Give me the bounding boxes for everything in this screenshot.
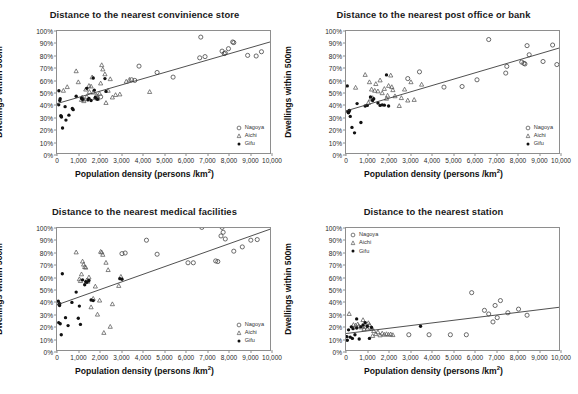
x-tick-label: 8,000 [221, 157, 237, 164]
x-tick-mark [410, 350, 411, 353]
y-tick-label: 70% [329, 65, 342, 72]
x-tick-label: 1,000 [359, 157, 375, 164]
legend-label: Aichi [359, 240, 371, 246]
y-tick-label: 60% [329, 77, 342, 84]
x-tick-mark [272, 153, 273, 156]
y-tick-label: 0% [43, 349, 53, 356]
x-tick-label: 9,000 [531, 157, 547, 164]
x-tick-label: 3,000 [402, 354, 418, 361]
y-tick-label: 20% [40, 324, 53, 331]
plot-area: 0%10%20%30%40%50%60%70%80%90%100%01,0002… [345, 30, 560, 154]
legend-item-aichi: Aichi [236, 330, 264, 336]
x-tick-label: 3,000 [113, 157, 129, 164]
y-tick-label: 20% [329, 127, 342, 134]
x-tick-mark [432, 350, 433, 353]
legend-item-nagoya: Nagoya [350, 232, 378, 238]
gifu-marker-icon [236, 338, 242, 344]
plot-area: 0%10%20%30%40%50%60%70%80%90%100%01,0002… [56, 227, 271, 351]
x-tick-label: 7,000 [199, 157, 215, 164]
x-tick-label: 6,000 [467, 354, 483, 361]
x-tick-mark [346, 350, 347, 353]
x-tick-mark [143, 153, 144, 156]
x-tick-mark [496, 350, 497, 353]
y-axis-label: Dwellings within 500m [0, 227, 8, 351]
x-tick-mark [121, 350, 122, 353]
chart-title: Distance to the nearest medical faciliti… [0, 206, 289, 217]
x-tick-mark [100, 350, 101, 353]
y-tick-label: 90% [329, 40, 342, 47]
y-tick-label: 50% [329, 287, 342, 294]
x-tick-label: 6,000 [178, 354, 194, 361]
legend-label: Aichi [245, 330, 257, 336]
y-tick-label: 90% [329, 237, 342, 244]
x-tick-label: 4,000 [424, 354, 440, 361]
x-axis-label-text: Population density (persons /km [364, 169, 497, 179]
x-tick-mark [561, 153, 562, 156]
x-tick-mark [164, 153, 165, 156]
chart-title: Distance to the nearest convinience stor… [0, 9, 289, 20]
x-tick-label: 0 [55, 354, 59, 361]
legend-item-gifu: Gifu [236, 338, 264, 344]
y-tick-label: 30% [40, 114, 53, 121]
x-axis-label-text: Population density (persons /km [75, 169, 208, 179]
x-tick-label: 0 [344, 157, 348, 164]
chart-panel: Distance to the nearest convinience stor… [0, 0, 289, 197]
x-tick-label: 4,000 [135, 157, 151, 164]
x-tick-mark [272, 350, 273, 353]
chart-legend: NagoyaAichiGifu [236, 322, 264, 344]
x-tick-mark [121, 153, 122, 156]
legend-label: Gifu [534, 141, 544, 147]
legend-label: Nagoya [245, 322, 264, 328]
x-tick-mark [453, 153, 454, 156]
legend-item-aichi: Aichi [236, 133, 264, 139]
y-tick-label: 100% [325, 28, 342, 35]
legend-item-nagoya: Nagoya [236, 322, 264, 328]
y-tick-label: 80% [40, 249, 53, 256]
x-tick-mark [367, 153, 368, 156]
y-tick-label: 60% [40, 274, 53, 281]
x-tick-label: 2,000 [92, 157, 108, 164]
x-tick-label: 8,000 [510, 354, 526, 361]
x-tick-label: 0 [55, 157, 59, 164]
nagoya-marker-icon [236, 322, 242, 328]
nagoya-marker-icon [350, 232, 356, 238]
y-tick-label: 40% [329, 102, 342, 109]
x-tick-mark [186, 153, 187, 156]
y-tick-label: 40% [329, 299, 342, 306]
x-tick-label: 10,000 [551, 157, 571, 164]
legend-label: Gifu [245, 141, 255, 147]
aichi-marker-icon [525, 133, 531, 139]
x-tick-mark [57, 153, 58, 156]
chart-legend: NagoyaAichiGifu [350, 232, 378, 254]
x-tick-label: 9,000 [242, 157, 258, 164]
x-tick-mark [100, 153, 101, 156]
x-tick-mark [539, 153, 540, 156]
x-tick-label: 8,000 [221, 354, 237, 361]
x-axis-label: Population density (persons /km2) [0, 365, 289, 376]
legend-item-gifu: Gifu [350, 248, 378, 254]
chart-panel: Distance to the nearest stationDwellings… [289, 197, 578, 394]
x-tick-label: 1,000 [359, 354, 375, 361]
chart-legend: NagoyaAichiGifu [236, 125, 264, 147]
y-axis-label: Dwellings within 500m [283, 30, 297, 154]
x-tick-label: 7,000 [488, 157, 504, 164]
x-tick-mark [475, 153, 476, 156]
chart-title: Distance to the nearest station [289, 206, 578, 217]
x-axis-label-text: Population density (persons /km [364, 366, 497, 376]
x-tick-label: 10,000 [262, 354, 282, 361]
y-axis-label: Dwellings within 500m [0, 30, 8, 154]
x-tick-mark [518, 350, 519, 353]
y-tick-label: 80% [40, 52, 53, 59]
x-axis-label: Population density (persons /km2) [289, 365, 578, 376]
chart-panel: Distance to the nearest post office or b… [289, 0, 578, 197]
y-tick-label: 100% [325, 225, 342, 232]
legend-label: Nagoya [359, 232, 378, 238]
legend-item-nagoya: Nagoya [236, 125, 264, 131]
x-tick-label: 10,000 [262, 157, 282, 164]
x-axis-label: Population density (persons /km2) [289, 168, 578, 179]
x-tick-mark [229, 350, 230, 353]
y-tick-label: 50% [329, 90, 342, 97]
y-tick-label: 30% [329, 311, 342, 318]
chart-title: Distance to the nearest post office or b… [289, 9, 578, 20]
x-tick-mark [229, 153, 230, 156]
